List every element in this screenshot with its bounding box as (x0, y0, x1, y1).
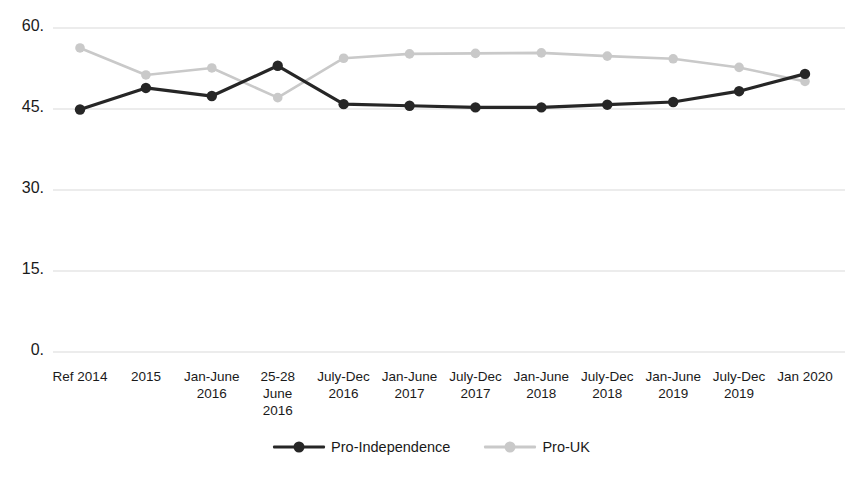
data-point (602, 51, 612, 61)
line-chart: 0.15.30.45.60. Ref 20142015Jan-June 2016… (0, 0, 863, 482)
y-axis-tick-label: 0. (2, 341, 44, 359)
data-point (404, 101, 414, 111)
y-axis-tick-label: 15. (2, 260, 44, 278)
x-axis-tick-label: July-Dec 2017 (438, 368, 512, 402)
data-point (273, 61, 283, 71)
series-lines (80, 48, 805, 110)
x-axis-tick-label: Jan-June 2019 (636, 368, 710, 402)
y-axis-tick-label: 45. (2, 98, 44, 116)
x-axis-tick-label: July-Dec 2018 (570, 368, 644, 402)
x-axis-tick-label: Jan-June 2018 (504, 368, 578, 402)
x-axis-tick-label: 2015 (109, 368, 183, 385)
series-line-pro-uk (80, 48, 805, 98)
x-axis-tick-label: July-Dec 2016 (307, 368, 381, 402)
gridlines (53, 28, 845, 352)
data-point (207, 91, 217, 101)
legend-marker-icon (294, 442, 305, 453)
x-axis-tick-label: Jan-June 2017 (373, 368, 447, 402)
legend-item[interactable]: Pro-UK (484, 439, 590, 455)
data-point (405, 49, 415, 59)
data-point (75, 104, 85, 114)
data-point (470, 102, 480, 112)
x-axis-tick-label: Jan 2020 (768, 368, 842, 385)
x-axis-tick-label: Ref 2014 (43, 368, 117, 385)
data-point (273, 93, 283, 103)
legend-label: Pro-UK (542, 439, 590, 455)
data-point (537, 48, 547, 58)
data-point (602, 99, 612, 109)
data-point (668, 54, 678, 64)
y-axis-tick-label: 60. (2, 17, 44, 35)
chart-legend: Pro-IndependencePro-UK (0, 432, 863, 462)
legend-item[interactable]: Pro-Independence (273, 439, 450, 455)
legend-marker-icon (505, 442, 516, 453)
data-point (668, 97, 678, 107)
data-point (734, 63, 744, 73)
data-point (734, 86, 744, 96)
legend-label: Pro-Independence (331, 439, 450, 455)
data-point (536, 102, 546, 112)
data-point (339, 53, 349, 63)
y-axis-tick-label: 30. (2, 179, 44, 197)
data-point (207, 63, 217, 73)
x-axis-tick-label: July-Dec 2019 (702, 368, 776, 402)
data-point (338, 99, 348, 109)
data-point (141, 70, 151, 80)
x-axis-tick-label: Jan-June 2016 (175, 368, 249, 402)
plot-area (0, 0, 863, 482)
data-point (800, 69, 810, 79)
legend-swatch (484, 440, 536, 454)
legend-swatch (273, 440, 325, 454)
data-point (471, 49, 481, 59)
data-point (75, 43, 85, 53)
series-line-pro-independence (80, 66, 805, 110)
data-point (141, 83, 151, 93)
x-axis-tick-label: 25-28 June 2016 (241, 368, 315, 419)
